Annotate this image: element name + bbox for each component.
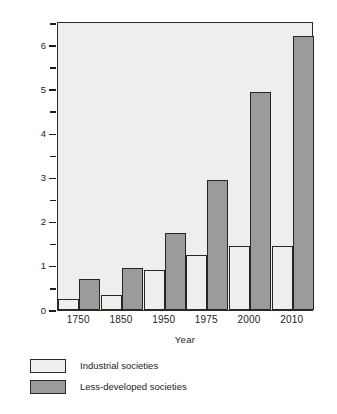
x-tick-label-2010: 2010	[270, 314, 313, 325]
bar-2000-less-developed	[250, 92, 271, 310]
y-tick-mark	[50, 288, 56, 290]
y-tick-label: 0	[41, 305, 46, 316]
bar-1750-less-developed	[79, 279, 100, 310]
legend-swatch-less-developed	[30, 380, 66, 394]
legend-label-less-developed: Less-developed societies	[80, 380, 187, 394]
legend-item-less-developed: Less-developed societies	[30, 379, 320, 400]
bar-1850-industrial	[101, 295, 122, 310]
y-tick-mark	[50, 67, 56, 69]
x-tick-label-1750: 1750	[57, 314, 100, 325]
y-tick-label: 4	[41, 128, 46, 139]
x-tick-label-1850: 1850	[100, 314, 143, 325]
population-bar-chart: Population (in billions) 0123456 1750185…	[0, 0, 337, 414]
y-tick-mark	[49, 178, 56, 180]
bar-group-1975	[186, 23, 229, 310]
legend-item-industrial: Industrial societies	[30, 358, 320, 379]
bar-1750-industrial	[58, 299, 79, 310]
y-tick-mark	[49, 222, 56, 224]
y-tick-mark	[49, 45, 56, 47]
bar-group-1750	[58, 23, 101, 310]
bar-1975-less-developed	[207, 180, 228, 310]
y-tick-mark	[50, 244, 56, 246]
bar-group-1950	[143, 23, 186, 310]
y-tick-label: 6	[41, 40, 46, 51]
y-tick-mark	[49, 89, 56, 91]
plot-area	[57, 22, 313, 311]
legend-label-industrial: Industrial societies	[80, 359, 158, 373]
y-tick-mark	[49, 134, 56, 136]
y-tick-mark	[50, 156, 56, 158]
bar-1950-less-developed	[165, 233, 186, 310]
bar-1850-less-developed	[122, 268, 143, 310]
y-tick-label: 3	[41, 172, 46, 183]
bar-2010-industrial	[272, 246, 293, 310]
bar-1975-industrial	[186, 255, 207, 310]
x-tick-label-1975: 1975	[185, 314, 228, 325]
y-tick-mark	[50, 200, 56, 202]
bar-2010-less-developed	[293, 36, 314, 310]
plot-inner	[58, 23, 312, 310]
chart-legend: Industrial societies Less-developed soci…	[30, 358, 320, 400]
y-tick-mark	[49, 310, 56, 312]
bar-group-1850	[101, 23, 144, 310]
y-tick-mark	[49, 266, 56, 268]
bar-group-2000	[229, 23, 272, 310]
x-tick-label-1950: 1950	[142, 314, 185, 325]
y-tick-label: 2	[41, 216, 46, 227]
y-tick-mark	[50, 23, 56, 25]
bar-group-2010	[271, 23, 314, 310]
y-axis-ticks: 0123456	[0, 0, 58, 414]
bar-1950-industrial	[144, 270, 165, 310]
legend-swatch-industrial	[30, 359, 66, 373]
y-tick-label: 1	[41, 260, 46, 271]
x-tick-label-2000: 2000	[228, 314, 271, 325]
x-axis-title: Year	[57, 334, 313, 345]
y-tick-mark	[50, 111, 56, 113]
y-tick-label: 5	[41, 84, 46, 95]
bar-2000-industrial	[229, 246, 250, 310]
